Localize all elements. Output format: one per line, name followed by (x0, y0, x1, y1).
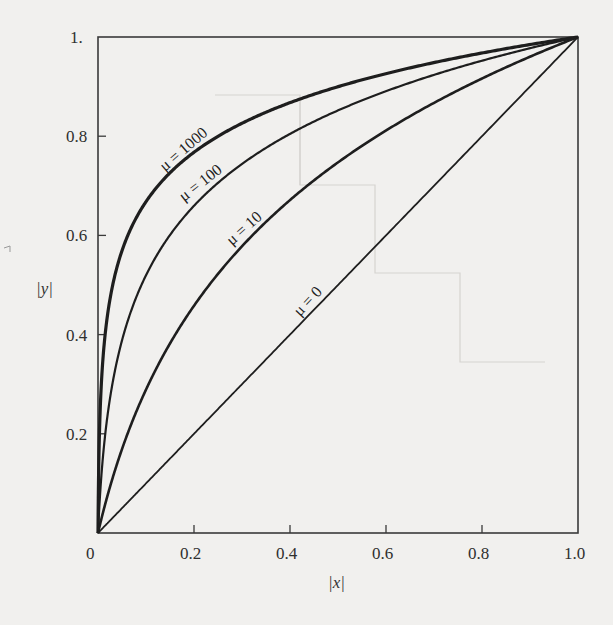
x-tick-label: 0.4 (276, 544, 298, 563)
x-tick-label: 1.0 (564, 544, 585, 563)
x-tick-label: 0.6 (372, 544, 393, 563)
mu-law-chart: 00.20.40.60.81.0 0.20.40.60.81. μ = 1000… (0, 0, 613, 625)
x-tick-label: 0.2 (180, 544, 201, 563)
x-tick-label: 0 (86, 544, 95, 563)
y-tick-label: 0.4 (66, 326, 88, 345)
x-axis-label: |x| (328, 573, 345, 592)
curve-label-mu-1000: μ = 1000 (156, 124, 211, 175)
y-tick-label: 0.8 (66, 127, 87, 146)
y-tick-label: 0.6 (66, 226, 87, 245)
curves (98, 37, 578, 533)
x-axis-ticks: 00.20.40.60.81.0 (86, 525, 585, 563)
curve-label-mu-0: μ = 0 (290, 283, 326, 320)
y-axis-label: |y| (36, 279, 53, 298)
y-tick-label: 1. (70, 28, 83, 47)
scan-artifact (4, 246, 10, 252)
y-tick-label: 0.2 (66, 425, 87, 444)
x-tick-label: 0.8 (468, 544, 489, 563)
